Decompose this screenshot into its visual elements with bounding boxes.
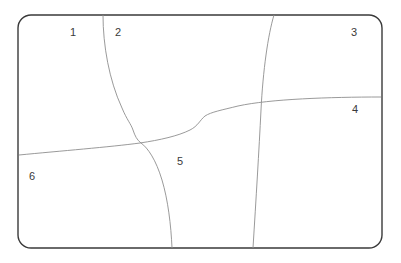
curve-horizontal-main bbox=[19, 97, 381, 155]
rounded-rectangle-border bbox=[18, 15, 382, 248]
region-label-6: 6 bbox=[29, 171, 35, 182]
region-label-5: 5 bbox=[177, 156, 183, 167]
diagram-canvas: 1 2 3 4 5 6 bbox=[0, 0, 401, 263]
region-label-1: 1 bbox=[70, 27, 76, 38]
curve-upper-vertical-left bbox=[103, 15, 172, 248]
region-label-2: 2 bbox=[115, 27, 121, 38]
diagram-svg bbox=[0, 0, 401, 263]
region-label-3: 3 bbox=[351, 27, 357, 38]
curve-upper-vertical-right bbox=[253, 15, 274, 248]
region-label-4: 4 bbox=[352, 104, 358, 115]
